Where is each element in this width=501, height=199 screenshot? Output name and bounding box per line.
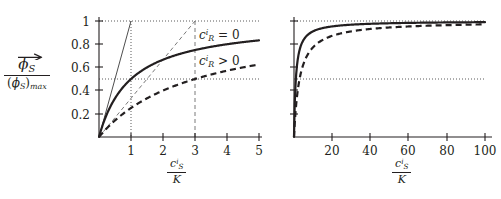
right-xtick-labels: 20 40 60 80 100	[324, 144, 496, 158]
series-annotation-solid-rel: = 0	[218, 28, 240, 42]
series-annotation-solid: ciR = 0	[199, 29, 240, 43]
y-axis-denominator-max: max	[30, 82, 47, 91]
figure-root: 1 0.8 0.6 0.4 0.2 1 2 3 4 5	[0, 0, 501, 199]
right-guides	[294, 21, 486, 79]
y-axis-label-fraction: ϕS (ϕS)max	[4, 57, 50, 91]
x-axis-label-right-fraction: ciS K	[392, 158, 411, 185]
x-axis-label-right: ciS K	[392, 158, 411, 185]
x-axis-label-left-denominator: K	[167, 173, 186, 185]
series-line-dashed-right	[294, 24, 485, 137]
y-axis-numerator-sub: S	[29, 63, 36, 74]
right-series	[294, 22, 485, 137]
right-xtick-label-60: 60	[400, 144, 415, 158]
x-axis-label-right-numerator: ciS	[392, 158, 411, 173]
x-axis-right-numerator-sub: S	[404, 162, 409, 171]
series-annotation-dashed: ciR > 0	[199, 55, 240, 69]
right-xtick-label-80: 80	[439, 144, 454, 158]
series-annotation-solid-sub: R	[208, 34, 214, 43]
series-annotation-dashed-rel: > 0	[218, 54, 240, 68]
x-axis-label-left: ciS K	[167, 158, 186, 185]
right-xtick-label-100: 100	[474, 144, 497, 158]
right-xtick-label-40: 40	[362, 144, 377, 158]
y-axis-label-numerator: ϕS	[4, 57, 50, 76]
y-axis-denominator-symbol: ϕ	[12, 76, 20, 90]
x-axis-label-right-denominator: K	[392, 173, 411, 185]
x-axis-left-numerator-sub: S	[179, 162, 184, 171]
y-axis-label: ϕS (ϕS)max	[4, 57, 50, 91]
x-axis-label-left-numerator: ciS	[167, 158, 186, 173]
y-axis-label-denominator: (ϕS)max	[4, 76, 50, 91]
phi-vector-group: ϕ	[18, 57, 28, 72]
series-annotation-dashed-symbol: c	[199, 54, 206, 68]
series-annotation-dashed-sub: R	[208, 60, 214, 69]
vector-arrow-icon	[18, 53, 44, 61]
right-xtick-label-20: 20	[324, 144, 339, 158]
series-annotation-solid-symbol: c	[199, 28, 206, 42]
chart-panel-right: 20 40 60 80 100	[0, 0, 501, 199]
x-axis-label-left-fraction: ciS K	[167, 158, 186, 185]
